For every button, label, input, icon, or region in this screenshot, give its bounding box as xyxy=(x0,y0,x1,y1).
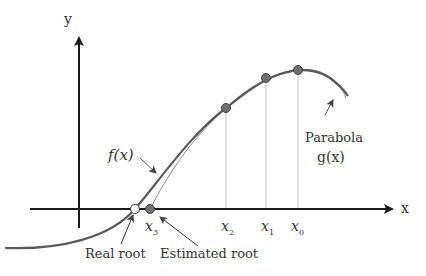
point-x2 xyxy=(222,104,231,113)
svg-text:x: x xyxy=(291,218,299,234)
parabola-label-arrow xyxy=(325,100,333,115)
f-label-arrow xyxy=(140,158,156,173)
point-label-x2: x 2 xyxy=(221,218,234,237)
parabola-function-label: g(x) xyxy=(317,149,345,165)
point-label-x1: x 1 xyxy=(261,218,274,237)
diagram-canvas: y x f(x) Parabola g(x) x 3 x 2 x 1 x 0 R… xyxy=(0,0,426,276)
svg-text:x: x xyxy=(221,218,229,234)
point-label-x0: x 0 xyxy=(291,218,304,237)
estimated-root-point xyxy=(146,205,155,214)
real-root-point xyxy=(131,205,140,214)
y-axis-label: y xyxy=(63,11,72,27)
point-x0 xyxy=(294,66,303,75)
x-axis-label: x xyxy=(401,200,409,216)
parabola-label: Parabola xyxy=(305,130,363,145)
real-root-label: Real root xyxy=(85,246,146,261)
svg-text:x: x xyxy=(145,218,153,234)
svg-text:3: 3 xyxy=(153,228,158,237)
point-x1 xyxy=(262,74,271,83)
estimated-root-arrow xyxy=(160,217,198,246)
svg-text:1: 1 xyxy=(269,228,274,237)
svg-text:2: 2 xyxy=(229,228,234,237)
guide-lines xyxy=(226,70,298,209)
svg-text:x: x xyxy=(261,218,269,234)
point-label-x3: x 3 xyxy=(145,218,158,237)
svg-text:0: 0 xyxy=(299,228,304,237)
estimated-root-label: Estimated root xyxy=(160,246,259,261)
f-curve-label: f(x) xyxy=(107,146,134,164)
